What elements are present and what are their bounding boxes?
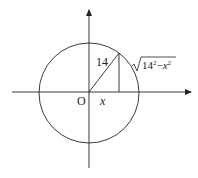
origin-label: O <box>77 94 86 108</box>
radicand-var-exp: 2 <box>168 59 172 67</box>
height-label: 142−x2 <box>132 57 176 71</box>
radius-label: 14 <box>96 55 108 69</box>
x-segment-label: x <box>99 94 106 108</box>
radicand-base: 14 <box>142 59 154 71</box>
svg-text:142−x2: 142−x2 <box>142 59 172 71</box>
circle-diagram: 14 O x 142−x2 <box>0 0 198 178</box>
